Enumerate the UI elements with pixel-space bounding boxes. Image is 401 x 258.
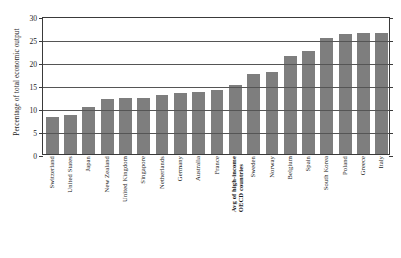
y-axis-tick-left [39, 87, 43, 88]
y-axis-tick-right [389, 133, 393, 134]
bar [82, 107, 95, 154]
bar [339, 34, 352, 154]
x-axis-tick-label: United States [66, 156, 73, 193]
bar-chart: Percentage of total economic output 0510… [0, 0, 401, 258]
gridline [43, 87, 389, 88]
x-axis-tick-label: Italy [377, 156, 384, 169]
bar [284, 56, 297, 154]
plot-area: 051015202530 [42, 17, 390, 155]
x-axis-tick-label: Greece [359, 156, 366, 175]
bar [229, 85, 242, 154]
bar [46, 117, 59, 154]
x-axis-tick-label: Poland [341, 156, 348, 175]
y-axis-tick-left [39, 110, 43, 111]
x-axis-tick-label: Norway [268, 156, 275, 178]
bar [156, 95, 169, 154]
y-axis-tick-left [39, 18, 43, 19]
bar [302, 51, 315, 155]
gridline [43, 133, 389, 134]
y-axis-tick-left [39, 133, 43, 134]
gridline [43, 64, 389, 65]
y-axis-tick-label: 25 [29, 37, 37, 46]
x-axis-tick-label: Japan [84, 156, 91, 172]
y-axis-tick-right [389, 18, 393, 19]
bar [320, 38, 333, 154]
y-axis-tick-right [389, 110, 393, 111]
y-axis-tick-label: 30 [29, 14, 37, 23]
x-axis-tick-label: Netherlands [158, 156, 165, 189]
bar [375, 33, 388, 154]
x-axis-tick-label: Spain [304, 156, 311, 172]
y-axis-tick-right [389, 87, 393, 88]
bar [211, 90, 224, 154]
y-axis-tick-right [389, 64, 393, 65]
x-axis-tick-label: New Zealand [103, 156, 110, 192]
bar [137, 98, 150, 154]
y-axis-tick-label: 15 [29, 83, 37, 92]
x-axis-tick-label: France [213, 156, 220, 175]
x-axis-tick-label: Avg of high-incomeOECD countries [230, 156, 245, 212]
x-axis-tick-label: United Kingdom [121, 156, 128, 202]
y-axis-tick-label: 20 [29, 60, 37, 69]
bar [192, 92, 205, 154]
y-axis-tick-right [389, 41, 393, 42]
x-axis-tick-label: Germany [176, 156, 183, 181]
bar [266, 72, 279, 154]
x-axis-labels: SwitzerlandUnited StatesJapanNew Zealand… [42, 156, 390, 256]
gridline [43, 110, 389, 111]
bar [357, 33, 370, 154]
bar [119, 98, 132, 154]
gridline [43, 41, 389, 42]
bar [64, 115, 77, 154]
y-axis-tick-label: 5 [33, 129, 37, 138]
bar [174, 93, 187, 154]
y-axis-tick-label: 10 [29, 106, 37, 115]
bar [247, 74, 260, 155]
y-axis-tick-label: 0 [33, 152, 37, 161]
x-axis-tick-label: Singapore [139, 156, 146, 184]
x-axis-tick-label: Sweden [249, 156, 256, 177]
y-axis-tick-left [39, 41, 43, 42]
x-axis-tick-label: Belgium [286, 156, 293, 179]
x-axis-tick-label: Australia [194, 156, 201, 181]
bar [101, 99, 114, 154]
y-axis-title: Percentage of total economic output [13, 7, 21, 157]
y-axis-tick-left [39, 64, 43, 65]
x-axis-tick-label: South Korea [322, 156, 329, 190]
x-axis-tick-label: Switzerland [48, 156, 55, 189]
